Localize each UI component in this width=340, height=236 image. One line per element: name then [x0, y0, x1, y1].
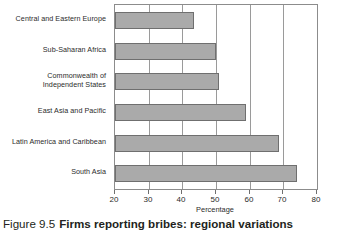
- bar: [115, 12, 194, 29]
- x-axis-tick: [215, 190, 216, 194]
- bar: [115, 104, 246, 121]
- category-label-east-asia-and-pacific: East Asia and Pacific: [0, 107, 106, 116]
- category-label-line: Sub-Saharan Africa: [43, 45, 106, 54]
- category-label-commonwealth-of-independent-states: Commonwealth of Independent States: [0, 72, 106, 89]
- category-label-line: South Asia: [71, 167, 106, 176]
- category-label-line: Central and Eastern Europe: [16, 14, 106, 23]
- figure-caption: Figure 9.5Firms reporting bribes: region…: [3, 217, 339, 231]
- category-label-line: Latin America and Caribbean: [12, 137, 106, 146]
- category-label-line: East Asia and Pacific: [38, 106, 106, 115]
- x-axis-tick: [181, 190, 182, 194]
- figure-caption-text: Firms reporting bribes: regional variati…: [59, 217, 293, 230]
- figure-number: Figure 9.5: [3, 217, 55, 230]
- x-axis-tick-label: 60: [237, 195, 261, 204]
- category-axis-labels: Central and Eastern Europe Sub-Saharan A…: [0, 4, 110, 188]
- x-axis-tick-label: 30: [136, 195, 160, 204]
- x-axis-tick-label: 40: [169, 195, 193, 204]
- x-axis-tick-label: 70: [270, 195, 294, 204]
- bar: [115, 43, 216, 60]
- x-axis-tick: [114, 190, 115, 194]
- figure-container: Central and Eastern Europe Sub-Saharan A…: [0, 0, 340, 236]
- plot-area: [114, 4, 318, 190]
- x-axis-tick-label: 80: [304, 195, 328, 204]
- bar: [115, 165, 297, 182]
- category-label-central-and-eastern-europe: Central and Eastern Europe: [0, 15, 106, 24]
- x-axis-title: Percentage: [114, 205, 316, 214]
- x-axis-tick-label: 50: [203, 195, 227, 204]
- bar-series: [115, 5, 317, 189]
- x-axis-tick: [316, 190, 317, 194]
- category-label-line: Independent States: [43, 80, 106, 89]
- x-axis-tick: [249, 190, 250, 194]
- bar: [115, 135, 279, 152]
- x-axis-tick: [282, 190, 283, 194]
- category-label-latin-america-and-caribbean: Latin America and Caribbean: [0, 138, 106, 147]
- category-label-sub-saharan-africa: Sub-Saharan Africa: [0, 46, 106, 55]
- bar: [115, 73, 219, 90]
- x-axis-tick-label: 20: [102, 195, 126, 204]
- category-label-south-asia: South Asia: [0, 168, 106, 177]
- x-axis-tick: [148, 190, 149, 194]
